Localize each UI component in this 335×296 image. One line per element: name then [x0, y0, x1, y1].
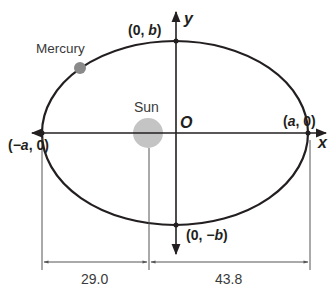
vertex-bottom-dot — [174, 223, 179, 228]
y-axis-label: y — [183, 10, 194, 27]
vertex-top-label: (0, b) — [128, 22, 161, 38]
vertex-left-label: (−a, 0) — [8, 137, 49, 153]
vertex-right-label: (a, 0) — [283, 113, 316, 129]
vertex-top-dot — [174, 39, 179, 44]
x-axis-label: x — [317, 134, 328, 151]
ellipse-orbit-diagram: y x O Mercury Sun (0, b) (0, −b) (−a, 0)… — [0, 0, 335, 296]
sun-label: Sun — [134, 99, 159, 115]
origin-label: O — [180, 114, 193, 131]
vertex-right-dot — [306, 131, 311, 136]
mercury-planet — [74, 62, 86, 74]
mercury-label: Mercury — [36, 41, 85, 56]
perihelion-distance-value: 29.0 — [81, 271, 108, 287]
vertex-bottom-label: (0, −b) — [186, 227, 228, 243]
vertex-left-dot — [40, 131, 45, 136]
aphelion-distance-value: 43.8 — [215, 271, 242, 287]
